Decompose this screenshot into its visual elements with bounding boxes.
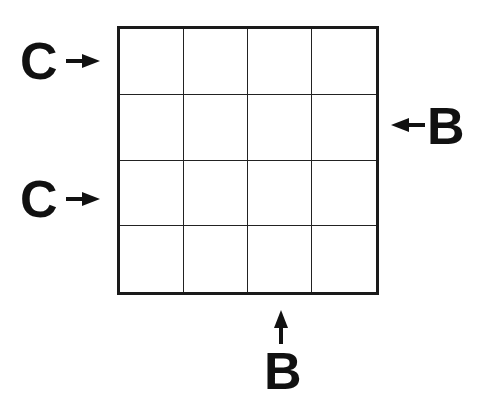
grid-cell[interactable] [248, 95, 312, 161]
grid-cell[interactable] [120, 161, 184, 227]
grid-cell[interactable] [184, 226, 248, 292]
arrow-left-icon [391, 118, 425, 132]
puzzle-grid [117, 26, 379, 295]
clue-letter-right-row2: B [427, 100, 465, 152]
grid-cell[interactable] [184, 29, 248, 95]
arrow-up-icon [274, 310, 288, 344]
grid-cell[interactable] [120, 226, 184, 292]
clue-letter-left-row3: C [20, 173, 58, 225]
grid-cell[interactable] [248, 226, 312, 292]
grid-cell[interactable] [312, 29, 376, 95]
grid-cell[interactable] [312, 226, 376, 292]
grid-cell[interactable] [248, 161, 312, 227]
arrow-right-icon [66, 54, 100, 68]
grid-cell[interactable] [312, 161, 376, 227]
arrow-right-icon [66, 192, 100, 206]
grid-cell[interactable] [184, 95, 248, 161]
grid-cell[interactable] [312, 95, 376, 161]
clue-letter-bottom-col3: B [264, 345, 302, 397]
grid-cell[interactable] [120, 95, 184, 161]
grid-cell[interactable] [184, 161, 248, 227]
clue-letter-left-row1: C [20, 35, 58, 87]
grid-cell[interactable] [120, 29, 184, 95]
grid-cell[interactable] [248, 29, 312, 95]
